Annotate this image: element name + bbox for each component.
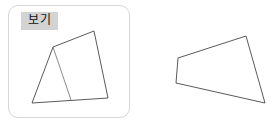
example-label: 보기 [21, 12, 58, 30]
screenshot-root: 보기 [0, 0, 275, 128]
example-card: 보기 [8, 5, 130, 118]
right-quadrilateral-outline [176, 36, 265, 103]
